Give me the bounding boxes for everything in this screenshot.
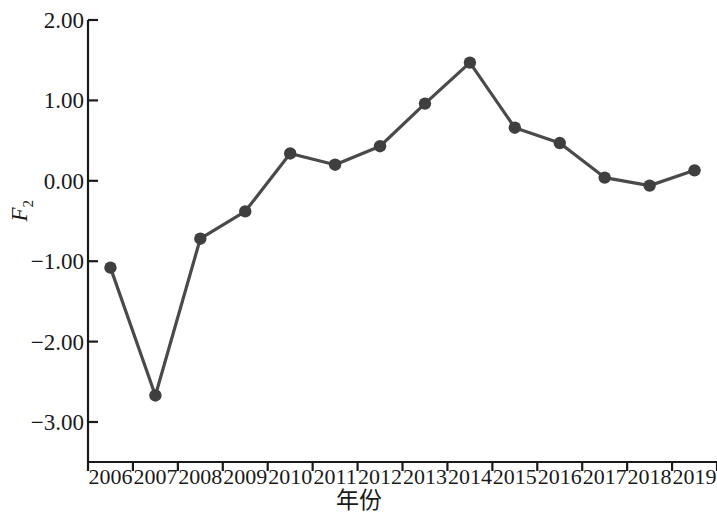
data-point-marker	[329, 159, 341, 171]
series-markers-f2	[104, 56, 700, 401]
data-point-marker	[284, 147, 296, 159]
data-point-marker	[239, 205, 251, 217]
data-point-marker	[374, 140, 386, 152]
plot-area	[0, 0, 717, 512]
axis-ticks	[88, 20, 717, 471]
data-point-marker	[149, 389, 161, 401]
data-point-marker	[419, 97, 431, 109]
data-point-marker	[643, 179, 655, 191]
data-point-marker	[688, 164, 700, 176]
data-point-marker	[509, 122, 521, 134]
data-point-marker	[464, 56, 476, 68]
data-point-marker	[554, 137, 566, 149]
axis-lines	[88, 20, 717, 462]
data-point-marker	[104, 261, 116, 273]
data-point-marker	[194, 232, 206, 244]
series-line-f2	[110, 63, 694, 396]
data-point-marker	[598, 171, 610, 183]
chart-figure: F2 2.001.000.00−1.00−2.00−3.00 200620072…	[0, 0, 717, 512]
